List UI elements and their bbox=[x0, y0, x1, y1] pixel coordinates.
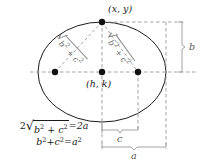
equation-line-1: 2√b2 + c2 = 2a bbox=[6, 120, 102, 136]
dimension-a-label: a bbox=[131, 151, 137, 161]
point-focus-left-marker bbox=[52, 69, 58, 75]
ellipse-diagram: (x, y) (h, k) b c a √ b2 + c2 √ b2 + c2 … bbox=[0, 0, 203, 162]
eq2-plus: + bbox=[47, 136, 55, 147]
bracket-a bbox=[102, 143, 166, 150]
eq1-radical: √b2 + c2 bbox=[26, 120, 69, 136]
point-center-marker bbox=[99, 69, 105, 75]
eq1-c-exp: 2 bbox=[64, 123, 68, 131]
equation-block: 2√b2 + c2 = 2a b2 + c2 = a2 bbox=[6, 120, 102, 152]
point-focus-right-marker bbox=[135, 69, 141, 75]
eq2-a-exp: 2 bbox=[78, 136, 82, 144]
center-hk-label: (h, k) bbox=[86, 79, 111, 89]
equation-line-2: b2 + c2 = a2 bbox=[6, 136, 102, 152]
eq1-plus: + bbox=[44, 124, 58, 135]
bracket-b bbox=[178, 22, 185, 72]
eq2-equals: = bbox=[64, 136, 72, 147]
eq1-equals: = bbox=[69, 120, 77, 131]
eq1-radicand: b2 + c2 bbox=[33, 120, 69, 136]
point-vertex-top-marker bbox=[99, 19, 105, 25]
dimension-b-label: b bbox=[189, 42, 195, 52]
eq1-rhs: 2a bbox=[77, 120, 89, 131]
dimension-c-label: c bbox=[117, 134, 122, 144]
point-xy-label: (x, y) bbox=[108, 4, 132, 14]
bracket-c bbox=[102, 126, 138, 133]
